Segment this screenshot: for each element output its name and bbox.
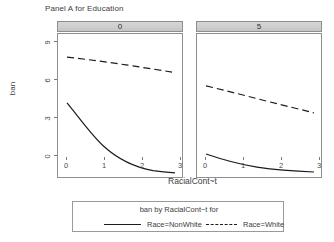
x-axis-title: RacialCont~t xyxy=(57,176,328,186)
panel-curves-0 xyxy=(58,34,183,178)
legend-entries: Race=NonWhite Race=White xyxy=(73,219,285,231)
x-tick-label-right-3: 3 xyxy=(313,161,325,170)
x-tick-mark-right-2 xyxy=(281,157,282,160)
legend-label-race-white: Race=White xyxy=(243,219,284,231)
y-axis-title: ban xyxy=(8,69,17,109)
panel-strip-label-0: 0 xyxy=(57,21,183,32)
x-tick-label-right-0: 0 xyxy=(199,161,211,170)
panel-plot-area-5 xyxy=(196,33,322,178)
x-tick-mark-left-0 xyxy=(66,157,67,160)
curve-race-white-5 xyxy=(206,86,314,113)
legend-key-race-nonwhite xyxy=(104,224,141,225)
panel-strip-label-5: 5 xyxy=(196,21,322,32)
x-tick-label-left-2: 2 xyxy=(136,161,148,170)
y-tick-label-3: 3 xyxy=(43,112,52,126)
x-tick-mark-right-3 xyxy=(319,157,320,160)
legend-title: ban by RacialCont~t for xyxy=(73,205,285,214)
x-tick-mark-left-3 xyxy=(180,157,181,160)
x-tick-label-left-1: 1 xyxy=(98,161,110,170)
x-tick-mark-left-1 xyxy=(104,157,105,160)
y-tick-label-9: 9 xyxy=(43,36,52,50)
x-tick-mark-right-1 xyxy=(243,157,244,160)
x-tick-label-right-1: 1 xyxy=(237,161,249,170)
panel-plot-area-0 xyxy=(57,33,183,178)
x-tick-label-left-3: 3 xyxy=(174,161,186,170)
y-tick-label-0: 0 xyxy=(43,150,52,164)
curve-race-nonwhite-5 xyxy=(206,154,314,172)
legend-key-race-white xyxy=(206,224,237,225)
y-tick-label-6: 6 xyxy=(43,74,52,88)
x-tick-mark-right-0 xyxy=(205,157,206,160)
curve-race-nonwhite-0 xyxy=(67,103,175,173)
page-title: Panel A for Education xyxy=(45,4,124,13)
chart-figure: Panel A for Education ban 0 3 6 9 0 5 xyxy=(0,0,334,242)
x-tick-label-right-2: 2 xyxy=(275,161,287,170)
legend: ban by RacialCont~t for Race=NonWhite Ra… xyxy=(72,201,284,232)
x-tick-mark-left-2 xyxy=(142,157,143,160)
legend-label-race-nonwhite: Race=NonWhite xyxy=(147,219,202,231)
panel-curves-5 xyxy=(197,34,322,178)
x-tick-label-left-0: 0 xyxy=(60,161,72,170)
curve-race-white-0 xyxy=(67,57,175,72)
